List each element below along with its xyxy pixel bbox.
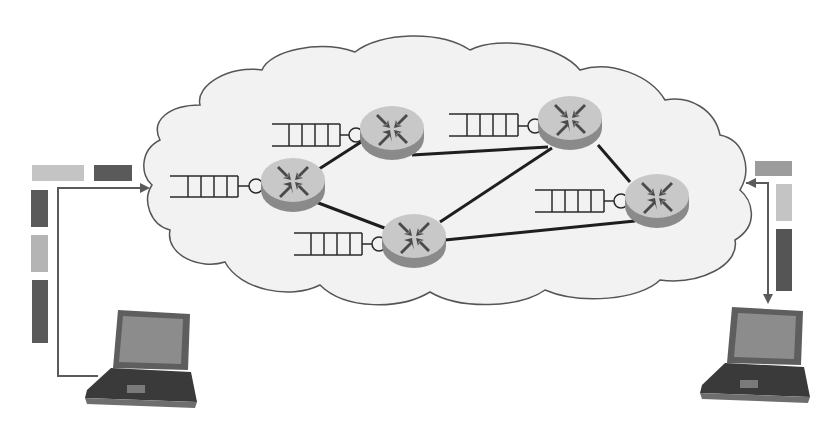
router-r1 <box>261 158 325 212</box>
right-laptop-icon <box>700 307 810 403</box>
packet <box>94 165 132 181</box>
router-r3 <box>538 96 602 150</box>
right-host-arrow <box>746 178 768 302</box>
router-r5 <box>625 174 689 228</box>
packet <box>31 190 48 227</box>
router-r2 <box>360 106 424 160</box>
packet <box>755 161 792 176</box>
packet <box>32 165 84 181</box>
packet <box>776 229 792 291</box>
queue-output-port <box>249 179 263 193</box>
left-laptop-icon <box>85 310 197 408</box>
packet <box>31 235 48 272</box>
network-cloud <box>144 36 752 305</box>
router-r4 <box>382 214 446 268</box>
network-diagram <box>0 0 830 433</box>
packet <box>776 184 792 221</box>
packet <box>32 280 48 343</box>
